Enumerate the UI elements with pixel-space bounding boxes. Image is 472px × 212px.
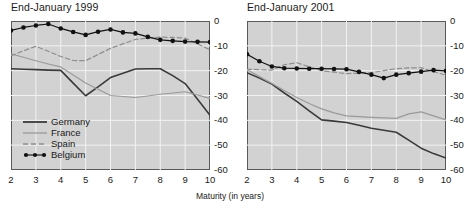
- legend-label-belgium: Belgium: [51, 149, 85, 160]
- x-tick-label: 7: [369, 175, 374, 185]
- legend-label-spain: Spain: [51, 138, 75, 149]
- y-tick-label: -10: [214, 41, 228, 51]
- y-tick-label: -60: [450, 165, 464, 175]
- x-tick-label: 4: [294, 175, 299, 185]
- x-tick-label: 2: [244, 175, 249, 185]
- chart-panel-1999: End-January 1999 0-10-20-30-40-50-60 234…: [0, 0, 236, 212]
- legend-item-germany: Germany: [22, 116, 110, 127]
- y-tick-label: -30: [450, 91, 464, 101]
- legend-item-belgium: Belgium: [22, 149, 110, 160]
- legend-label-germany: Germany: [51, 116, 90, 127]
- x-tick-label: 8: [394, 175, 399, 185]
- legend-key-france: [22, 127, 48, 138]
- y-axis-labels-2001: 0-10-20-30-40-50-60: [450, 21, 472, 170]
- interest-rate-spread-figure: End-January 1999 0-10-20-30-40-50-60 234…: [0, 0, 472, 212]
- y-tick-label: 0: [450, 16, 455, 26]
- y-tick-label: -40: [450, 115, 464, 125]
- y-tick-label: -20: [450, 66, 464, 76]
- x-tick-label: 9: [182, 175, 187, 185]
- plot-area-2001: [247, 21, 446, 170]
- legend: Germany France Spain: [22, 116, 110, 162]
- x-axis-labels-1999: 2345678910: [11, 175, 210, 189]
- legend-key-belgium: [22, 149, 48, 160]
- page-title: End-January 1999: [11, 1, 98, 13]
- legend-key-germany: [22, 116, 48, 127]
- x-axis-title: Maturity (in years): [196, 191, 264, 201]
- x-tick-label: 3: [33, 175, 38, 185]
- y-tick-label: -10: [450, 41, 464, 51]
- x-tick-label: 3: [269, 175, 274, 185]
- plot-svg-2001: [247, 21, 446, 170]
- y-tick-label: -30: [214, 91, 228, 101]
- x-tick-label: 6: [108, 175, 113, 185]
- x-tick-label: 5: [319, 175, 324, 185]
- page-title-2001: End-January 2001: [247, 1, 334, 13]
- x-tick-label: 5: [83, 175, 88, 185]
- x-tick-label: 7: [133, 175, 138, 185]
- x-tick-label: 8: [158, 175, 163, 185]
- y-tick-label: 0: [214, 16, 219, 26]
- legend-item-spain: Spain: [22, 138, 110, 149]
- x-axis-labels-2001: 2345678910: [247, 175, 446, 189]
- chart-panel-2001: End-January 2001 0-10-20-30-40-50-60 234…: [236, 0, 472, 212]
- y-tick-label: -40: [214, 115, 228, 125]
- x-tick-label: 4: [58, 175, 63, 185]
- legend-item-france: France: [22, 127, 110, 138]
- x-tick-label: 10: [205, 175, 216, 185]
- x-tick-label: 10: [441, 175, 452, 185]
- x-tick-label: 6: [344, 175, 349, 185]
- y-tick-label: -50: [450, 140, 464, 150]
- y-tick-label: -60: [214, 165, 228, 175]
- y-axis-labels-1999: 0-10-20-30-40-50-60: [214, 21, 236, 170]
- x-tick-label: 2: [8, 175, 13, 185]
- y-tick-label: -20: [214, 66, 228, 76]
- x-tick-label: 9: [418, 175, 423, 185]
- legend-key-spain: [22, 138, 48, 149]
- y-tick-label: -50: [214, 140, 228, 150]
- legend-label-france: France: [51, 127, 81, 138]
